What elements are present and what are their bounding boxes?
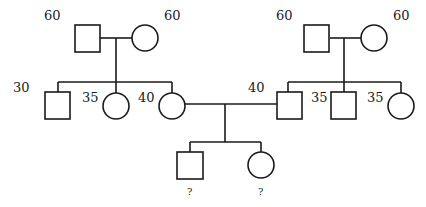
age-label: 40: [248, 80, 265, 95]
maternal-siblings: 30 35 40: [13, 80, 185, 119]
female-symbol: [159, 93, 185, 119]
paternal-grandparents: 60 60: [276, 8, 410, 82]
female-symbol: [361, 25, 387, 51]
proband-family: ? ?: [177, 104, 277, 197]
female-symbol: [132, 25, 158, 51]
male-symbol: [277, 92, 302, 119]
unknown-label: ?: [187, 186, 192, 197]
male-symbol: [75, 25, 100, 52]
age-label: 35: [311, 90, 328, 105]
age-label: 35: [82, 90, 99, 105]
age-label: 30: [13, 80, 30, 95]
male-symbol: [45, 92, 70, 119]
female-symbol: [388, 93, 414, 119]
male-symbol: [304, 25, 329, 52]
pedigree-diagram: 60 60 60 60 30 35 40 40 35 35: [0, 0, 426, 207]
unknown-label: ?: [258, 186, 263, 197]
age-label: 40: [138, 90, 155, 105]
age-label: 60: [276, 8, 293, 23]
age-label: 60: [393, 8, 410, 23]
age-label: 60: [164, 8, 181, 23]
female-symbol: [248, 152, 274, 178]
male-symbol: [331, 92, 356, 119]
paternal-siblings: 40 35 35: [248, 80, 414, 119]
male-symbol: [177, 152, 203, 179]
age-label: 35: [367, 90, 384, 105]
maternal-grandparents: 60 60: [44, 8, 181, 82]
age-label: 60: [44, 8, 61, 23]
female-symbol: [103, 93, 129, 119]
